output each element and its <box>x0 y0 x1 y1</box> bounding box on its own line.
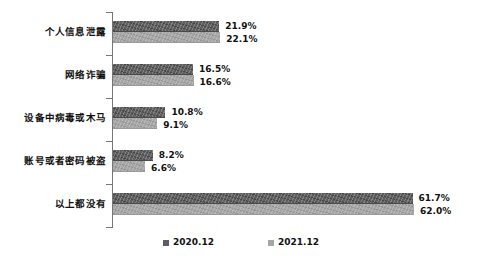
legend-item-2021[interactable]: 2021.12 <box>268 238 319 247</box>
bar-value-2020-1: 16.5% <box>199 65 230 74</box>
bar-2021-2[interactable] <box>113 118 157 129</box>
bar-2021-1[interactable] <box>113 75 194 86</box>
category-group: 账号或者密码被盗 8.2% 6.6% <box>0 141 497 184</box>
bar-2020-1[interactable] <box>113 64 193 75</box>
bar-2021-4[interactable] <box>113 204 414 215</box>
bar-2020-3[interactable] <box>113 150 153 161</box>
bar-2020-0[interactable] <box>113 21 219 32</box>
bar-2021-0[interactable] <box>113 32 220 43</box>
bar-value-2020-4: 61.7% <box>419 194 450 203</box>
legend-swatch-icon <box>268 240 274 246</box>
legend-swatch-icon <box>163 240 169 246</box>
bar-value-2021-1: 16.6% <box>200 78 231 87</box>
category-group: 设备中病毒或木马 10.8% 9.1% <box>0 98 497 141</box>
plot-area: 个人信息泄露 21.9% 22.1% 网络诈骗 16.5% 16.6% 设备中病… <box>0 0 497 271</box>
bar-chart: 个人信息泄露 21.9% 22.1% 网络诈骗 16.5% 16.6% 设备中病… <box>0 0 497 271</box>
bar-2020-4[interactable] <box>113 193 413 204</box>
category-label-3: 账号或者密码被盗 <box>24 156 106 166</box>
bar-value-2021-2: 9.1% <box>163 121 188 130</box>
bar-value-2020-0: 21.9% <box>225 22 256 31</box>
category-label-0: 个人信息泄露 <box>45 27 106 37</box>
legend-label-2020: 2020.12 <box>173 238 214 247</box>
category-group: 个人信息泄露 21.9% 22.1% <box>0 12 497 55</box>
bar-value-2021-3: 6.6% <box>151 164 176 173</box>
axis-tick <box>106 227 112 228</box>
chart-legend: 2020.12 2021.12 <box>0 236 497 250</box>
category-label-1: 网络诈骗 <box>65 70 106 80</box>
bar-value-2020-2: 10.8% <box>171 108 202 117</box>
bar-value-2020-3: 8.2% <box>159 151 184 160</box>
category-label-4: 以上都没有 <box>55 199 106 209</box>
legend-item-2020[interactable]: 2020.12 <box>163 238 214 247</box>
bar-2020-2[interactable] <box>113 107 165 118</box>
bar-value-2021-4: 62.0% <box>420 207 451 216</box>
category-group: 网络诈骗 16.5% 16.6% <box>0 55 497 98</box>
legend-label-2021: 2021.12 <box>278 238 319 247</box>
category-label-2: 设备中病毒或木马 <box>24 113 106 123</box>
category-group: 以上都没有 61.7% 62.0% <box>0 184 497 227</box>
bar-2021-3[interactable] <box>113 161 145 172</box>
bar-value-2021-0: 22.1% <box>226 35 257 44</box>
